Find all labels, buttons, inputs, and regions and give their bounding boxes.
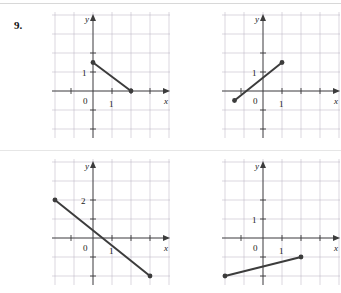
x-axis-label-10: x [333, 96, 338, 106]
line-segment-10 [232, 60, 284, 103]
grid-10 [222, 12, 340, 138]
grid-12 [222, 159, 340, 285]
exercise-panel-11: 11. [0, 147, 170, 293]
segment-endpoint-right-12 [299, 255, 304, 260]
axes-10 [222, 14, 340, 138]
y-tick-label-10: 1 [252, 68, 257, 78]
exercise-number-9: 9. [14, 19, 22, 31]
origin-label-10: 0 [253, 96, 258, 106]
y-axis-label-9: y [84, 14, 89, 24]
origin-label-12: 0 [253, 243, 258, 253]
segment-endpoint-right-11 [148, 274, 153, 279]
y-tick-label-11: 2 [81, 196, 86, 206]
graph-9: x y 0 1 1 [52, 12, 170, 138]
x-tick-label-10: 1 [279, 99, 284, 109]
y-tick-label-12: 1 [252, 215, 257, 225]
segment-endpoint-left-9 [91, 60, 96, 65]
exercise-page: 9. [0, 0, 341, 293]
y-axis-label-12: y [254, 161, 259, 171]
exercise-panel-12: 12. [170, 147, 340, 293]
axes-11 [52, 161, 170, 285]
exercise-panel-10: 10. [170, 0, 340, 146]
y-axis-label-11: y [84, 161, 89, 171]
segment-endpoint-right-10 [280, 60, 285, 65]
segment-endpoint-right-9 [129, 89, 134, 94]
graph-11: x y 0 1 2 [52, 159, 170, 285]
segment-endpoint-left-10 [232, 98, 237, 103]
x-axis-label-11: x [163, 243, 168, 253]
x-tick-label-9: 1 [109, 99, 114, 109]
x-axis-label-9: x [163, 96, 168, 106]
x-axis-label-12: x [333, 243, 338, 253]
x-tick-label-12: 1 [279, 246, 284, 256]
axes-12 [222, 161, 340, 285]
y-tick-label-9: 1 [82, 68, 87, 78]
graph-10: x y 0 1 1 [222, 12, 340, 138]
segment-endpoint-left-11 [53, 198, 58, 203]
grid-11 [52, 159, 170, 285]
origin-label-9: 0 [83, 96, 88, 106]
origin-label-11: 0 [83, 243, 88, 253]
segment-endpoint-left-12 [223, 274, 228, 279]
graph-12: x y 0 1 1 [222, 159, 340, 285]
exercise-panel-9: 9. [0, 0, 170, 146]
y-axis-label-10: y [254, 14, 259, 24]
